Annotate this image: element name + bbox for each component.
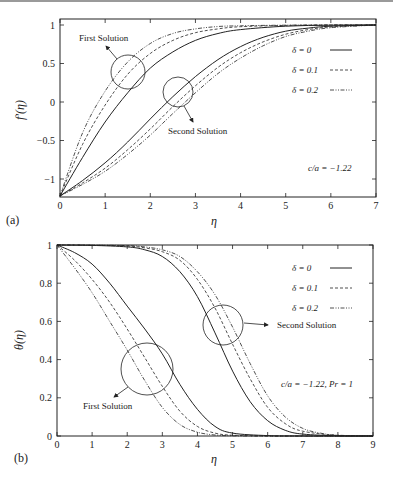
x-tick-label: 3 — [193, 200, 198, 211]
x-tick-label: 5 — [230, 439, 235, 450]
y-tick-label: 0.2 — [40, 392, 53, 403]
chart-panel-a: 0123456710.50−0.5−1 η f′(η) (a) First So… — [6, 19, 379, 228]
legend-label: δ = 0.1 — [292, 65, 318, 75]
chart-panel-b: 012345678900.20.40.60.81 η θ(η) (b) Seco… — [12, 240, 376, 467]
x-tick-label: 1 — [90, 439, 95, 450]
panel-label: (b) — [14, 451, 28, 465]
x-tick-label: 4 — [195, 439, 200, 450]
first-solution-circle — [121, 343, 173, 395]
x-axis-title: η — [211, 214, 217, 228]
ticks: 012345678900.20.40.60.81 — [40, 240, 376, 451]
x-tick-label: 5 — [283, 200, 288, 211]
x-tick-label: 0 — [58, 200, 63, 211]
x-tick-label: 2 — [148, 200, 153, 211]
x-axis-title: η — [211, 452, 217, 466]
x-tick-label: 7 — [300, 439, 305, 450]
first-solution-label: First Solution — [79, 33, 129, 43]
legend: δ = 0δ = 0.1δ = 0.2 — [292, 45, 352, 95]
x-tick-label: 4 — [238, 200, 243, 211]
y-tick-label: 0 — [47, 431, 52, 442]
ticks: 0123456710.50−0.5−1 — [37, 19, 379, 211]
x-tick-label: 8 — [335, 439, 340, 450]
y-tick-label: 1 — [47, 240, 52, 251]
parameter-annotation: c/a = −1.22 — [308, 163, 352, 173]
y-tick-label: 0.5 — [43, 58, 56, 69]
arrow-icon — [244, 323, 268, 325]
parameter-annotation: c/a = −1.22, Pr = 1 — [281, 379, 353, 389]
first-solution-circle — [111, 55, 145, 89]
x-tick-label: 1 — [103, 200, 108, 211]
y-tick-label: 0.4 — [40, 354, 53, 365]
first-solution-label: First Solution — [83, 401, 133, 411]
legend-label: δ = 0.1 — [292, 283, 318, 293]
legend-label: δ = 0.2 — [292, 85, 319, 95]
figure: 0123456710.50−0.5−1 η f′(η) (a) First So… — [0, 0, 393, 480]
arrow-icon — [106, 46, 117, 59]
y-tick-label: 0 — [50, 97, 55, 108]
y-axis-title: f′(η) — [13, 100, 27, 120]
arrow-icon — [184, 106, 193, 122]
legend-label: δ = 0 — [292, 45, 312, 55]
y-tick-label: 0.8 — [40, 278, 53, 289]
x-tick-label: 3 — [160, 439, 165, 450]
y-tick-label: −0.5 — [37, 135, 55, 146]
second-solution-label: Second Solution — [277, 320, 337, 330]
x-tick-label: 2 — [125, 439, 130, 450]
second-solution-circle — [203, 305, 243, 345]
second-solution-label: Second Solution — [168, 126, 228, 136]
arrow-icon — [114, 387, 128, 397]
x-tick-label: 9 — [371, 439, 376, 450]
legend-label: δ = 0.2 — [292, 303, 319, 313]
x-tick-label: 6 — [328, 200, 333, 211]
x-tick-label: 7 — [374, 200, 379, 211]
y-tick-label: −1 — [44, 174, 55, 185]
x-tick-label: 0 — [55, 439, 60, 450]
x-tick-label: 6 — [265, 439, 270, 450]
y-tick-label: 1 — [50, 20, 55, 31]
legend-label: δ = 0 — [292, 263, 312, 273]
y-tick-label: 0.6 — [40, 316, 53, 327]
y-axis-title: θ(η) — [12, 330, 26, 350]
panel-label: (a) — [6, 213, 19, 227]
legend: δ = 0δ = 0.1δ = 0.2 — [292, 263, 352, 313]
